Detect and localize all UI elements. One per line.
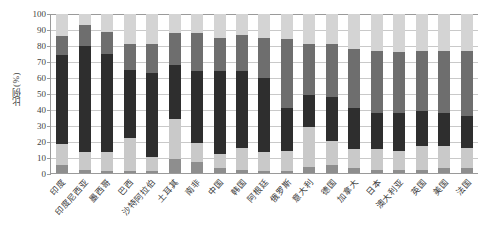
bar-segment <box>438 14 450 51</box>
bar-segment <box>236 35 248 72</box>
bar-slot <box>141 14 163 173</box>
y-tick-label: 40 <box>37 106 46 115</box>
y-tick-label: 30 <box>37 122 46 131</box>
bar-segment <box>214 38 226 71</box>
bar-segment <box>393 113 405 151</box>
bar-segment <box>258 152 270 171</box>
x-tick-label: 英国 <box>410 178 429 197</box>
bar-segment <box>461 168 473 173</box>
bar-segment <box>348 168 360 173</box>
bar-segment <box>258 78 270 153</box>
bar-segment <box>101 54 113 153</box>
stacked-bar <box>326 14 338 173</box>
bar-segment <box>371 14 383 51</box>
y-tick-label: 80 <box>37 42 46 51</box>
bar-segment <box>169 159 181 173</box>
stacked-bar <box>258 14 270 173</box>
bar-segment <box>56 55 68 144</box>
x-tick-label: 德国 <box>320 178 339 197</box>
bar-segment <box>281 108 293 151</box>
bar-segment <box>393 170 405 173</box>
stacked-bar <box>393 14 405 173</box>
stacked-bar <box>56 14 68 173</box>
bar-segment <box>303 95 315 127</box>
bar-segment <box>258 38 270 78</box>
bar-segment <box>191 162 203 173</box>
bar-segment <box>214 14 226 38</box>
stacked-bar <box>146 14 158 173</box>
bar-segment <box>236 148 248 170</box>
bar-segment <box>214 154 226 168</box>
x-label-slot: 澳大利亚 <box>388 176 411 246</box>
bar-slot <box>208 14 230 173</box>
bar-segment <box>101 152 113 171</box>
x-label-slot: 土耳其 <box>163 176 186 246</box>
y-tick-label: 100 <box>33 10 47 19</box>
x-label-slot: 德国 <box>320 176 343 246</box>
stacked-bar <box>191 14 203 173</box>
bar-slot <box>51 14 73 173</box>
bar-segment <box>191 33 203 71</box>
stacked-bar <box>124 14 136 173</box>
x-tick-label: 日本 <box>365 178 384 197</box>
bar-segment <box>371 51 383 113</box>
bar-slot <box>118 14 140 173</box>
plot-area <box>50 14 478 174</box>
bar-segment <box>416 51 428 111</box>
bar-segment <box>303 14 315 44</box>
bar-segment <box>281 151 293 172</box>
bar-segment <box>101 171 113 173</box>
y-tick-mark <box>47 174 51 175</box>
stacked-bar <box>438 14 450 173</box>
bar-segment <box>348 149 360 168</box>
y-tick-label: 90 <box>37 26 46 35</box>
x-label-slot: 韩国 <box>230 176 253 246</box>
stacked-bar <box>461 14 473 173</box>
bar-segment <box>236 14 248 35</box>
bar-segment <box>371 149 383 170</box>
bar-segment <box>124 14 136 44</box>
bar-segment <box>326 97 338 142</box>
bar-segment <box>326 141 338 165</box>
stacked-bar <box>214 14 226 173</box>
x-label-slot: 意大利 <box>298 176 321 246</box>
y-tick-label: 60 <box>37 74 46 83</box>
bar-segment <box>416 146 428 170</box>
bar-segment <box>371 170 383 173</box>
stacked-bar-chart: 比例(%) 0102030405060708090100 印度印度尼西亚墨西哥巴… <box>0 0 485 247</box>
bar-segment <box>236 170 248 173</box>
bar-segment <box>124 70 136 138</box>
bar-segment <box>79 152 91 169</box>
stacked-bar <box>281 14 293 173</box>
bar-slot <box>253 14 275 173</box>
bar-slot <box>298 14 320 173</box>
bar-segment <box>438 168 450 173</box>
x-label-slot: 日本 <box>365 176 388 246</box>
bar-slot <box>433 14 455 173</box>
bar-segment <box>461 148 473 169</box>
bar-segment <box>438 51 450 113</box>
bar-segment <box>348 14 360 49</box>
bar-segment <box>461 51 473 116</box>
bar-segment <box>79 14 91 25</box>
bar-segment <box>303 167 315 173</box>
x-label-slot: 法国 <box>456 176 479 246</box>
y-tick-label: 70 <box>37 58 46 67</box>
bar-segment <box>146 14 158 44</box>
bar-segment <box>393 14 405 52</box>
bar-segment <box>191 14 203 33</box>
bar-slot <box>366 14 388 173</box>
stacked-bar <box>303 14 315 173</box>
x-label-slot: 印度尼西亚 <box>73 176 96 246</box>
bar-segment <box>214 71 226 154</box>
x-label-slot: 沙特阿拉伯 <box>140 176 163 246</box>
bar-segment <box>146 171 158 173</box>
x-label-slot: 加拿大 <box>343 176 366 246</box>
bar-segment <box>416 14 428 51</box>
bar-segment <box>303 44 315 95</box>
bar-segment <box>393 151 405 170</box>
bar-segment <box>146 44 158 73</box>
x-label-slot: 中国 <box>208 176 231 246</box>
x-label-slot: 墨西哥 <box>95 176 118 246</box>
bar-slot <box>411 14 433 173</box>
